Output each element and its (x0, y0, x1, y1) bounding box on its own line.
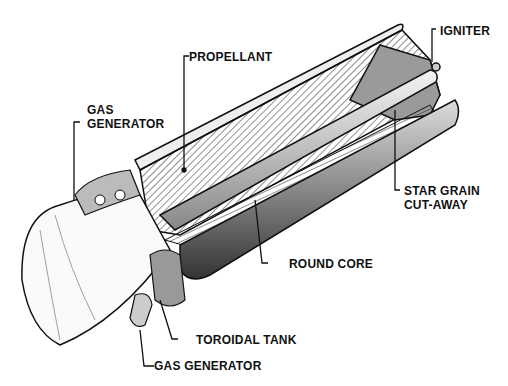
label-star-grain-line2: CUT-AWAY (404, 198, 468, 212)
label-round-core: ROUND CORE (289, 257, 373, 271)
label-propellant: PROPELLANT (189, 50, 272, 64)
label-igniter: IGNITER (440, 24, 490, 38)
toroidal-tank-part (150, 250, 185, 306)
nozzle (22, 194, 170, 345)
label-gas-generator-top-line2: GENERATOR (87, 117, 164, 131)
gas-generator-bottom-part (130, 294, 152, 327)
label-gas-generator-bottom: GAS GENERATOR (154, 359, 262, 373)
igniter-tip (432, 63, 440, 71)
label-star-grain-line1: STAR GRAIN (404, 184, 480, 198)
label-toroidal-tank: TOROIDAL TANK (196, 333, 297, 347)
label-gas-generator-top-line1: GAS (87, 103, 114, 117)
